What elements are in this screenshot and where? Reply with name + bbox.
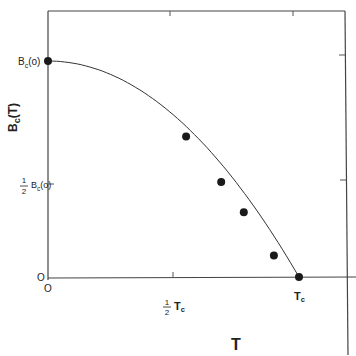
data-point — [182, 133, 190, 141]
y-label-top: Bc(o) — [18, 56, 40, 69]
data-point — [240, 208, 248, 216]
critical-field-curve — [48, 61, 299, 277]
x-label-tc: Tc — [294, 290, 305, 304]
critical-field-chart: Bc(o) 1 2 Bc(o) O Bc(T) O 1 2 Tc Tc T — [0, 0, 356, 356]
data-point — [270, 251, 278, 259]
x-label-half: 1 2 Tc — [163, 298, 185, 317]
data-points — [44, 57, 303, 281]
data-point — [44, 57, 52, 65]
right-border — [345, 11, 348, 355]
y-axis-title: Bc(T) — [6, 103, 22, 132]
svg-text:2: 2 — [22, 187, 27, 196]
data-point — [295, 273, 303, 281]
svg-text:1: 1 — [165, 298, 170, 307]
y-label-half: 1 2 Bc(o) — [20, 176, 51, 196]
svg-text:1: 1 — [22, 176, 27, 185]
x-label-zero: O — [44, 283, 52, 294]
svg-text:Tc: Tc — [174, 300, 185, 314]
data-point — [217, 178, 225, 186]
plot-frame — [48, 11, 356, 355]
y-label-zero: O — [37, 272, 45, 283]
x-axis — [48, 277, 356, 278]
svg-text:2: 2 — [165, 308, 170, 317]
x-axis-title: T — [231, 336, 241, 353]
